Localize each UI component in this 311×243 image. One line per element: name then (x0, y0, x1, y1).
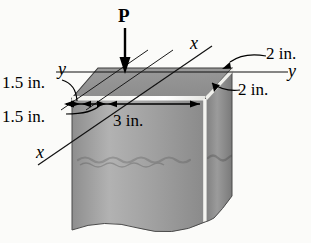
dimension-label-3in: 3 in. (113, 112, 143, 129)
y-axis-label-left: y (58, 60, 66, 78)
y-axis-label-right: y (288, 62, 296, 80)
x-axis-label-upper: x (190, 34, 198, 52)
leader-2in-upper (230, 55, 266, 62)
corner-vertical-highlight (203, 99, 206, 222)
dimension-label-2in-upper: 2 in. (266, 45, 296, 62)
x-axis-label-lower: x (36, 143, 44, 161)
figure-canvas: P x x y y 1.5 in. 1.5 in. 3 in. 2 in. 2 … (0, 0, 311, 243)
dimension-label-2in-lower: 2 in. (238, 81, 268, 98)
dimension-label-1p5-lower: 1.5 in. (2, 108, 45, 125)
load-arrow-P (120, 28, 131, 74)
block-diagram-svg (0, 0, 311, 243)
dimension-label-1p5-upper: 1.5 in. (2, 74, 45, 91)
load-label-P: P (118, 6, 130, 25)
leader-2in-upper-arrowhead (222, 62, 231, 69)
